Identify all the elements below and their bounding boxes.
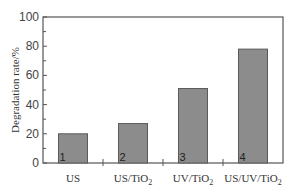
x-category-label: US/TiO2 bbox=[114, 172, 152, 187]
y-tick-label: 80 bbox=[26, 39, 40, 53]
y-tick-label: 60 bbox=[26, 68, 40, 82]
bar-chart: 020406080100 1234 USUS/TiO2UV/TiO2US/UV/… bbox=[0, 0, 301, 191]
x-category-label: US bbox=[66, 172, 80, 184]
y-tick-label: 40 bbox=[26, 98, 40, 112]
y-axis-label: Degradation rate/% bbox=[9, 47, 21, 133]
x-category-label: UV/TiO2 bbox=[173, 172, 213, 187]
x-category-label: US/UV/TiO2 bbox=[224, 172, 281, 187]
y-tick-label: 20 bbox=[26, 127, 40, 141]
bar-number-label: 4 bbox=[240, 151, 246, 163]
bars: 1234 bbox=[59, 49, 268, 163]
bar-4 bbox=[239, 49, 268, 163]
y-tick-label: 100 bbox=[19, 10, 39, 24]
y-tick-label: 0 bbox=[32, 156, 39, 170]
bar-number-label: 3 bbox=[180, 151, 186, 163]
bar-number-label: 1 bbox=[60, 151, 66, 163]
bar-number-label: 2 bbox=[120, 151, 126, 163]
